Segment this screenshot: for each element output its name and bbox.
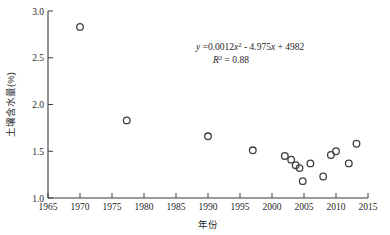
data-point bbox=[77, 24, 84, 31]
y-tick-label-2-5: 2.5 bbox=[32, 53, 44, 63]
equation-eq-part: =0.0012 bbox=[200, 42, 234, 52]
data-point bbox=[205, 133, 212, 140]
x-tick-label-2010: 2010 bbox=[327, 202, 346, 212]
x-tick-label-2015: 2015 bbox=[359, 202, 378, 212]
r-squared-value: = 0.88 bbox=[222, 55, 249, 65]
y-tick-label-2-0: 2.0 bbox=[32, 100, 44, 110]
equation-line: y =0.0012x2 - 4.975x + 4982 bbox=[195, 41, 305, 52]
data-point bbox=[282, 153, 289, 160]
x-tick-label-1985: 1985 bbox=[167, 202, 186, 212]
data-point bbox=[123, 117, 130, 124]
data-point bbox=[346, 160, 353, 167]
y-axis-title: 土壤含水量(%) bbox=[5, 72, 16, 137]
chart-container: 3.0 2.5 2.0 1.5 1.0 土壤含水量(%) 1965 1970 1… bbox=[0, 0, 390, 235]
x-axis-group: 1965 1970 1975 1980 1985 1990 1995 2000 … bbox=[39, 193, 378, 230]
equation-annotation: y =0.0012x2 - 4.975x + 4982 R2 = 0.88 bbox=[195, 41, 305, 65]
data-point bbox=[307, 160, 314, 167]
y-axis-group: 3.0 2.5 2.0 1.5 1.0 土壤含水量(%) bbox=[5, 7, 53, 204]
x-tick-label-1990: 1990 bbox=[199, 202, 218, 212]
data-point bbox=[250, 147, 257, 154]
r-squared-line: R2 = 0.88 bbox=[212, 54, 249, 65]
x-tick-label-1975: 1975 bbox=[103, 202, 122, 212]
data-point bbox=[333, 148, 340, 155]
x-axis-title: 年份 bbox=[198, 219, 218, 230]
equation-tail-part: + 4982 bbox=[275, 42, 304, 52]
x-tick-label-1995: 1995 bbox=[231, 202, 250, 212]
x-tick-label-1970: 1970 bbox=[71, 202, 90, 212]
x-tick-label-1965: 1965 bbox=[39, 202, 58, 212]
x-tick-label-2005: 2005 bbox=[295, 202, 314, 212]
y-tick-label-3-0: 3.0 bbox=[32, 7, 44, 17]
equation-mid-part: - 4.975 bbox=[242, 42, 272, 52]
data-point bbox=[299, 178, 306, 185]
x-tick-label-2000: 2000 bbox=[263, 202, 282, 212]
y-tick-label-1-5: 1.5 bbox=[32, 147, 44, 157]
scatter-plot: 3.0 2.5 2.0 1.5 1.0 土壤含水量(%) 1965 1970 1… bbox=[0, 0, 390, 235]
data-point bbox=[353, 140, 360, 147]
x-tick-label-1980: 1980 bbox=[135, 202, 154, 212]
data-point bbox=[320, 173, 327, 180]
